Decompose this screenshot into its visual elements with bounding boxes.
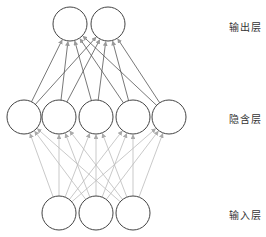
connection-edge [30, 134, 53, 198]
output-node [91, 7, 125, 41]
hidden-node [42, 100, 76, 134]
hidden-node [7, 100, 41, 134]
neural-network-diagram [0, 0, 266, 237]
nodes [7, 7, 186, 230]
hidden-node [79, 100, 113, 134]
input-to-hidden-edges [30, 129, 163, 203]
hidden-node [116, 100, 150, 134]
connection-edge [38, 129, 121, 202]
input-node [79, 196, 113, 230]
hidden-to-output-edges [31, 36, 160, 106]
input-node [116, 196, 150, 230]
input-node [42, 196, 76, 230]
connection-edge [35, 131, 87, 200]
output-node [53, 7, 87, 41]
connection-edge [35, 37, 96, 105]
hidden-node [152, 100, 186, 134]
connection-edge [118, 39, 160, 103]
output-layer-label: 输出层 [229, 19, 262, 34]
connection-edge [80, 39, 124, 104]
connection-edge [61, 42, 68, 101]
input-layer-label: 输入层 [229, 207, 262, 222]
connection-edge [71, 129, 155, 203]
hidden-layer-label: 隐含层 [229, 111, 262, 126]
connection-edge [139, 134, 163, 198]
connection-edge [75, 41, 92, 101]
connection-edge [31, 40, 62, 102]
connection-edge [83, 36, 157, 106]
